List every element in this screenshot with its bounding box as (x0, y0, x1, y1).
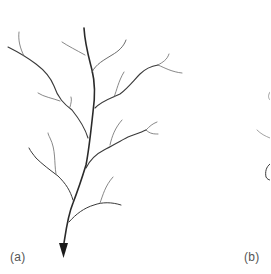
twig-left-upper-c (70, 97, 71, 107)
twig-right-middle-b (146, 130, 158, 134)
branch-left-lower (29, 148, 73, 200)
twig-left-upper-b (38, 93, 60, 101)
twig-right-upper-b (158, 65, 182, 73)
twig-right-upper-c (114, 72, 124, 97)
figure: (a) (b) (0, 0, 270, 274)
panel-a-tree (8, 28, 182, 258)
twig-right-lower-a (100, 177, 113, 203)
panel-b-line (257, 130, 270, 138)
panel-b-partial (257, 92, 270, 180)
arrow-down-icon (59, 243, 68, 258)
twig-right-upper-a (158, 54, 169, 65)
branch-top-left-twig (62, 42, 85, 55)
branch-right-upper (95, 65, 158, 108)
branch-top-right-twig (92, 40, 126, 72)
branch-right-middle (86, 130, 146, 168)
twig-right-middle-a (146, 122, 157, 130)
branch-left-upper (8, 47, 88, 138)
branching-diagram-svg (0, 0, 270, 274)
panel-b-curve (266, 164, 270, 180)
twig-left-upper-a (19, 32, 24, 56)
panel-label-b: (b) (244, 250, 260, 264)
twig-left-lower-a (48, 133, 56, 174)
panel-b-arc (269, 92, 271, 100)
panel-label-a: (a) (10, 250, 26, 264)
branch-right-lower (69, 203, 121, 222)
trunk (64, 28, 94, 243)
